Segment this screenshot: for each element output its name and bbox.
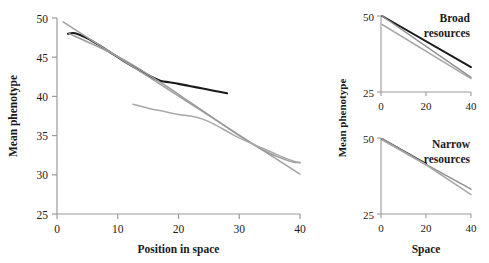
main-xtick-label-20: 20: [173, 223, 185, 235]
broad-xtick-label-40: 40: [466, 100, 478, 112]
main-ytick-label-35: 35: [37, 130, 49, 142]
broad-xtick-label-0: 0: [378, 100, 384, 112]
narrow-xtick-label-0: 0: [378, 222, 384, 234]
broad-title-line2: resources: [424, 27, 471, 39]
main-ytick-label-40: 40: [37, 91, 49, 103]
figure-container: 50 45 40 35 30 25 0 10 20 30 40 Position…: [0, 0, 489, 263]
main-xaxis-title: Position in space: [138, 243, 220, 256]
main-xtick-label-40: 40: [294, 223, 306, 235]
main-ytick-label-25: 25: [37, 209, 49, 221]
narrow-ytick-label-50: 50: [363, 133, 375, 145]
narrow-xtick-label-20: 20: [421, 222, 433, 234]
main-ytick-label-50: 50: [37, 13, 49, 25]
right-yaxis-title: Mean phenotype: [336, 79, 348, 158]
narrow-ytick-label-25: 25: [363, 209, 375, 221]
narrow-xtick-label-40: 40: [466, 222, 478, 234]
main-xtick-label-30: 30: [234, 223, 246, 235]
main-yaxis-title: Mean phenotype: [7, 75, 20, 157]
broad-title-line1: Broad: [440, 12, 471, 24]
narrow-title-line2: resources: [424, 153, 471, 165]
main-ytick-label-30: 30: [37, 169, 49, 181]
multi-panel-line-chart: 50 45 40 35 30 25 0 10 20 30 40 Position…: [0, 0, 489, 263]
broad-ytick-label-25: 25: [363, 87, 375, 99]
main-xtick-label-0: 0: [54, 223, 60, 235]
main-xtick-label-10: 10: [112, 223, 124, 235]
broad-xtick-label-20: 20: [421, 100, 433, 112]
narrow-xaxis-title: Space: [412, 243, 441, 256]
narrow-title-line1: Narrow: [432, 138, 471, 150]
broad-ytick-label-50: 50: [363, 11, 375, 23]
main-ytick-label-45: 45: [37, 52, 49, 64]
